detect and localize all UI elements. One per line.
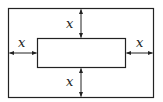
inner-rectangle [38,39,126,68]
margin-diagram: x x x x [0,0,163,102]
right-label: x [136,35,144,50]
bottom-label: x [66,74,74,89]
left-label: x [18,35,26,50]
top-label: x [66,16,74,31]
